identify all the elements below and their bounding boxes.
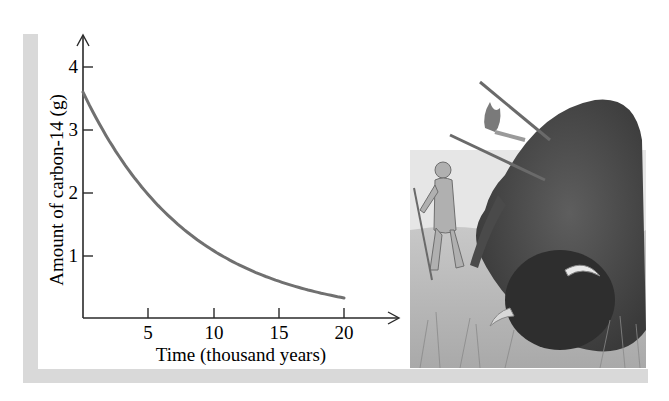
x-tick-label: 15 (270, 322, 289, 343)
x-tick-label: 20 (335, 322, 354, 343)
y-tick-label: 2 (69, 182, 79, 203)
x-tick-label: 5 (143, 322, 153, 343)
x-ticks: 5 10 15 20 (143, 308, 353, 343)
y-axis-title: Amount of carbon-14 (g) (46, 94, 68, 286)
y-tick-label: 3 (69, 119, 79, 140)
y-ticks: 1 2 3 4 (69, 56, 94, 266)
bison-hunt-illustration (410, 80, 646, 368)
x-tick-label: 10 (205, 322, 224, 343)
y-tick-label: 4 (69, 56, 79, 77)
y-tick-label: 1 (69, 245, 79, 266)
x-axis-title: Time (thousand years) (156, 344, 326, 366)
decay-curve-line (83, 92, 344, 298)
